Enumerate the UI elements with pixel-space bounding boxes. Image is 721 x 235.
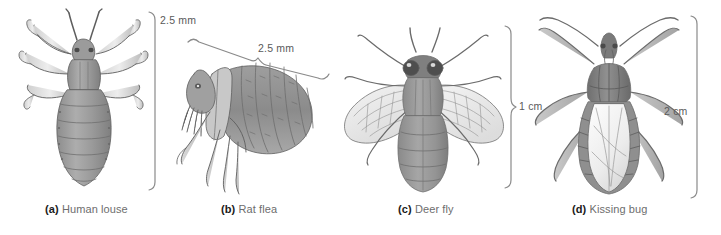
- caption-text-d: Kissing bug: [590, 203, 648, 215]
- scale-label-rat-flea: 2.5 mm: [258, 42, 294, 54]
- caption-text-c: Deer fly: [415, 203, 454, 215]
- panel-human-louse: [14, 6, 154, 196]
- deer-fly-dorsal-illustration: [338, 24, 510, 196]
- scale-bracket-human-louse: [146, 10, 160, 192]
- caption-text-a: Human louse: [62, 203, 128, 215]
- scale-label-human-louse: 2.5 mm: [160, 14, 196, 26]
- panel-deer-fly: [338, 24, 510, 196]
- caption-deer-fly: (c) Deer fly: [398, 203, 454, 215]
- kissing-bug-dorsal-illustration: [524, 6, 694, 198]
- caption-text-b: Rat flea: [239, 203, 278, 215]
- caption-kissing-bug: (d) Kissing bug: [572, 203, 648, 215]
- caption-letter-d: (d): [572, 203, 586, 215]
- human-louse-dorsal-illustration: [14, 6, 154, 196]
- scale-label-kissing-bug: 2 cm: [664, 105, 688, 117]
- caption-rat-flea: (b) Rat flea: [221, 203, 277, 215]
- caption-human-louse: (a) Human louse: [45, 203, 128, 215]
- panel-kissing-bug: [524, 6, 694, 198]
- caption-letter-a: (a): [45, 203, 59, 215]
- scale-bracket-deer-fly: [502, 24, 518, 190]
- caption-letter-c: (c): [398, 203, 412, 215]
- insect-vectors-figure: 2.5 mm: [0, 0, 721, 235]
- scale-bracket-kissing-bug: [688, 14, 702, 200]
- caption-letter-b: (b): [221, 203, 235, 215]
